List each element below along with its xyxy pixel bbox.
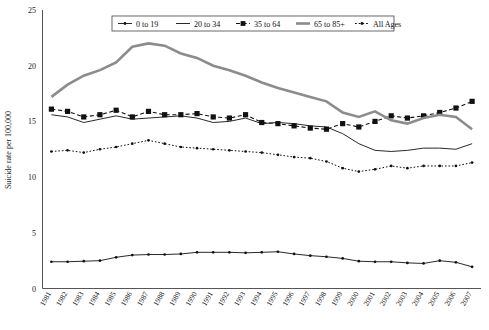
data-point-marker bbox=[50, 260, 53, 263]
data-point-marker bbox=[179, 146, 182, 149]
data-series-layer bbox=[49, 43, 475, 268]
data-point-marker bbox=[406, 167, 409, 170]
data-point-marker bbox=[163, 142, 166, 145]
data-point-marker bbox=[260, 151, 263, 154]
x-tick-label: 2005 bbox=[426, 290, 441, 308]
data-point-marker bbox=[49, 107, 54, 112]
x-tick-label: 1986 bbox=[119, 290, 134, 308]
x-tick-label: 1999 bbox=[329, 290, 344, 308]
x-tick-label: 1995 bbox=[264, 290, 279, 308]
data-point-marker bbox=[50, 150, 53, 153]
y-tick-label: 0 bbox=[32, 285, 36, 294]
legend-marker bbox=[241, 21, 246, 26]
chart-canvas: Suicide rate per 100,000 0510152025 1981… bbox=[0, 0, 489, 330]
data-point-marker bbox=[357, 170, 360, 173]
data-point-marker bbox=[340, 121, 345, 126]
data-point-marker bbox=[275, 121, 280, 126]
x-tick-label: 2002 bbox=[378, 290, 393, 308]
y-tick-label: 20 bbox=[28, 62, 36, 71]
x-tick-label: 1989 bbox=[167, 290, 182, 308]
data-point-marker bbox=[259, 120, 264, 125]
x-tick-label: 2006 bbox=[442, 290, 457, 308]
data-point-marker bbox=[147, 253, 150, 256]
data-point-marker bbox=[212, 251, 215, 254]
data-point-marker bbox=[114, 108, 119, 113]
x-tick-label: 2000 bbox=[345, 290, 360, 308]
data-point-marker bbox=[422, 262, 425, 265]
data-point-marker bbox=[374, 260, 377, 263]
data-point-marker bbox=[178, 112, 183, 117]
data-point-marker bbox=[341, 167, 344, 170]
data-point-marker bbox=[260, 251, 263, 254]
legend-marker bbox=[361, 22, 364, 25]
data-point-marker bbox=[453, 105, 458, 110]
y-axis-title-group: Suicide rate per 100,000 bbox=[4, 111, 13, 189]
data-point-marker bbox=[438, 259, 441, 262]
x-tick-label: 1983 bbox=[70, 290, 85, 308]
data-point-marker bbox=[82, 260, 85, 263]
x-axis-tick-labels: 1981198219831984198519861987198819891990… bbox=[38, 290, 474, 308]
data-point-marker bbox=[356, 124, 361, 129]
data-point-marker bbox=[82, 151, 85, 154]
data-point-marker bbox=[293, 156, 296, 159]
data-point-marker bbox=[405, 115, 410, 120]
data-point-marker bbox=[196, 251, 199, 254]
legend-label: 35 to 64 bbox=[254, 20, 280, 29]
data-point-marker bbox=[163, 253, 166, 256]
x-tick-label: 1982 bbox=[54, 290, 69, 308]
data-point-marker bbox=[471, 161, 474, 164]
series-line bbox=[51, 140, 472, 171]
x-tick-label: 1985 bbox=[103, 290, 118, 308]
data-point-marker bbox=[471, 265, 474, 268]
data-point-marker bbox=[309, 157, 312, 160]
data-point-marker bbox=[131, 254, 134, 257]
y-axis-tick-labels: 0510152025 bbox=[28, 6, 36, 294]
legend-label: 65 to 85+ bbox=[314, 20, 345, 29]
x-tick-label: 2004 bbox=[410, 290, 425, 308]
x-tick-label: 1994 bbox=[248, 290, 263, 308]
data-point-marker bbox=[389, 113, 394, 118]
x-tick-label: 1987 bbox=[135, 290, 150, 308]
data-point-marker bbox=[470, 99, 475, 104]
data-point-marker bbox=[131, 142, 134, 145]
x-tick-label: 1984 bbox=[86, 290, 101, 308]
series-35-to-64 bbox=[49, 99, 475, 132]
x-tick-label: 1993 bbox=[232, 290, 247, 308]
x-tick-label: 1998 bbox=[313, 290, 328, 308]
data-point-marker bbox=[97, 112, 102, 117]
data-point-marker bbox=[65, 109, 70, 114]
chart-legend: 0 to 1920 to 3435 to 6465 to 85+All Ages bbox=[112, 16, 401, 31]
legend-label: 20 to 34 bbox=[194, 20, 220, 29]
x-tick-label: 1996 bbox=[281, 290, 296, 308]
data-point-marker bbox=[147, 139, 150, 142]
x-tick-label: 1991 bbox=[200, 290, 215, 308]
data-point-marker bbox=[228, 149, 231, 152]
data-point-marker bbox=[277, 250, 280, 253]
data-point-marker bbox=[130, 114, 135, 119]
x-tick-label: 1992 bbox=[216, 290, 231, 308]
data-point-marker bbox=[308, 125, 313, 130]
data-point-marker bbox=[244, 150, 247, 153]
data-point-marker bbox=[390, 165, 393, 168]
y-tick-label: 5 bbox=[32, 229, 36, 238]
x-tick-label: 1997 bbox=[297, 290, 312, 308]
data-point-marker bbox=[228, 251, 231, 254]
x-tick-label: 2007 bbox=[459, 290, 474, 308]
data-point-marker bbox=[179, 253, 182, 256]
data-point-marker bbox=[292, 123, 297, 128]
data-point-marker bbox=[81, 114, 86, 119]
data-point-marker bbox=[211, 114, 216, 119]
data-point-marker bbox=[455, 261, 458, 264]
series-line bbox=[51, 252, 472, 267]
x-tick-label: 1981 bbox=[38, 290, 53, 308]
data-point-marker bbox=[372, 119, 377, 124]
data-point-marker bbox=[244, 252, 247, 255]
data-point-marker bbox=[99, 259, 102, 262]
data-point-marker bbox=[325, 160, 328, 163]
data-point-marker bbox=[309, 254, 312, 257]
series-all-ages bbox=[50, 139, 473, 173]
x-tick-label: 2001 bbox=[361, 290, 376, 308]
data-point-marker bbox=[455, 165, 458, 168]
data-point-marker bbox=[194, 111, 199, 116]
y-axis-title: Suicide rate per 100,000 bbox=[4, 111, 13, 189]
